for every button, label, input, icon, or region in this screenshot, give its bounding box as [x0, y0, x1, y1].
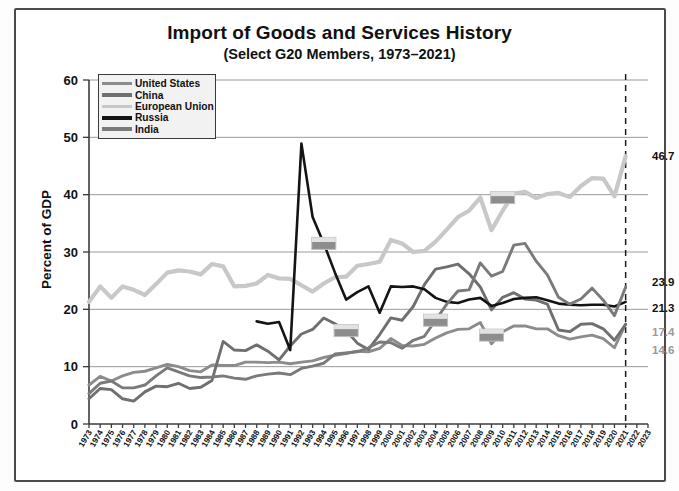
end-value-label: 17.4 — [652, 326, 675, 338]
russia-flag-band — [312, 237, 336, 242]
legend-swatch-icon — [102, 116, 132, 120]
legend-item-united-states[interactable]: United States — [102, 78, 211, 89]
marker-china-flag — [334, 325, 358, 337]
chart-figure: Import of Goods and Services History (Se… — [0, 0, 679, 491]
legend-label: United States — [135, 78, 200, 89]
india-flag-band — [424, 314, 448, 319]
legend-swatch-icon — [102, 105, 132, 109]
y-tick-label: 20 — [64, 302, 78, 317]
y-tick-label: 0 — [71, 417, 78, 432]
y-tick-label: 40 — [64, 187, 78, 202]
legend-label: European Union — [135, 101, 214, 112]
end-value-label: 21.3 — [652, 302, 674, 314]
end-value-label: 14.6 — [652, 344, 674, 356]
legend-item-china[interactable]: China — [102, 89, 211, 100]
us-flag-band — [479, 329, 503, 334]
eu-flag-band — [491, 192, 515, 197]
y-tick-label: 10 — [64, 359, 78, 374]
legend-item-russia[interactable]: Russia — [102, 112, 211, 123]
marker-us-flag — [479, 329, 503, 341]
legend-swatch-icon — [102, 93, 132, 97]
chart-legend: United StatesChinaEuropean UnionRussiaIn… — [98, 74, 216, 139]
legend-label: Russia — [135, 112, 168, 123]
y-tick-label: 30 — [64, 245, 78, 260]
marker-india-flag — [424, 314, 448, 326]
legend-label: India — [135, 124, 159, 135]
series-line-european-union — [89, 156, 626, 302]
y-tick-label: 60 — [64, 73, 78, 88]
legend-label: China — [135, 90, 163, 101]
marker-eu-flag — [491, 192, 515, 204]
end-value-label: 46.7 — [652, 150, 674, 162]
end-value-label: 23.9 — [652, 276, 674, 288]
china-flag-band — [334, 325, 358, 330]
legend-swatch-icon — [102, 82, 132, 86]
legend-item-european-union[interactable]: European Union — [102, 101, 211, 112]
legend-swatch-icon — [102, 127, 132, 131]
marker-russia-flag — [312, 237, 336, 249]
y-tick-label: 50 — [64, 130, 78, 145]
legend-item-india[interactable]: India — [102, 124, 211, 135]
